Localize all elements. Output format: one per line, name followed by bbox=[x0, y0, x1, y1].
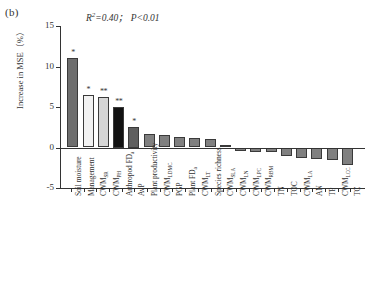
significance-marker: * bbox=[126, 118, 142, 126]
x-axis-label: TN bbox=[277, 186, 286, 196]
bar bbox=[327, 148, 338, 161]
x-axis-label: CWMSR bbox=[99, 171, 108, 196]
x-axis-label: Soil moisture bbox=[74, 156, 83, 196]
bar bbox=[83, 95, 94, 148]
y-tick-label: 15 bbox=[34, 21, 54, 30]
bar bbox=[159, 135, 170, 147]
label-subscript: a bbox=[128, 152, 134, 154]
x-axis-label: Arthropod FDa bbox=[125, 152, 134, 196]
bar bbox=[281, 148, 292, 157]
x-axis-label: PGP bbox=[175, 182, 184, 196]
label-subscript: a bbox=[192, 167, 198, 169]
x-tick bbox=[84, 188, 85, 192]
bar bbox=[128, 127, 139, 147]
y-tick-label: 0 bbox=[34, 143, 54, 152]
bar bbox=[342, 148, 353, 165]
x-axis-labels: Soil moistureManagementCWMSRCWMPHArthrop… bbox=[60, 196, 365, 296]
significance-marker: ** bbox=[95, 88, 111, 96]
x-tick bbox=[300, 188, 301, 192]
bar-series: ******* bbox=[60, 26, 365, 188]
x-axis-label: CWMLPC bbox=[252, 168, 261, 196]
bar bbox=[67, 58, 78, 147]
stats-annotation: R2=0.40； P<0.01 bbox=[86, 10, 160, 24]
plot-area: 151050-5 ******* bbox=[60, 26, 365, 188]
x-tick bbox=[249, 188, 250, 192]
x-tick bbox=[236, 188, 237, 192]
x-tick bbox=[160, 188, 161, 192]
x-axis-label: Species richness bbox=[214, 147, 223, 196]
bar bbox=[98, 97, 109, 147]
label-subscript: LA bbox=[306, 171, 312, 178]
x-axis-label: CWMLA bbox=[303, 171, 312, 196]
x-tick bbox=[172, 188, 173, 192]
x-tick bbox=[261, 188, 262, 192]
x-axis-label: TC bbox=[353, 187, 362, 196]
label-subscript: LCC bbox=[344, 167, 350, 177]
x-axis-label: Plant FDa bbox=[188, 167, 197, 196]
x-tick bbox=[147, 188, 148, 192]
label-subscript: LN bbox=[243, 171, 249, 178]
x-axis-label: CWMLN bbox=[239, 171, 248, 196]
label-subscript: SLA bbox=[230, 168, 236, 178]
x-tick bbox=[134, 188, 135, 192]
label-subscript: LT bbox=[204, 172, 210, 178]
x-axis-label: CWMPH bbox=[112, 171, 121, 196]
x-axis-label: CWMRBM bbox=[264, 166, 273, 196]
label-subscript: PH bbox=[115, 171, 121, 178]
x-axis-label: TP bbox=[328, 187, 337, 196]
x-tick bbox=[71, 188, 72, 192]
x-tick bbox=[223, 188, 224, 192]
x-tick bbox=[274, 188, 275, 192]
x-tick bbox=[350, 188, 351, 192]
x-axis-label: CWMLCC bbox=[341, 167, 350, 196]
x-axis-label: AvP bbox=[137, 183, 146, 196]
x-axis-label: AN bbox=[315, 185, 324, 196]
y-tick-label: -5 bbox=[34, 183, 54, 192]
label-subscript: RBM bbox=[268, 166, 274, 178]
x-axis-label: CWMSLA bbox=[226, 168, 235, 196]
label-subscript: LDMC bbox=[166, 163, 172, 178]
significance-marker: * bbox=[80, 86, 96, 94]
x-tick bbox=[122, 188, 123, 192]
label-subscript: SR bbox=[103, 171, 109, 177]
x-tick bbox=[198, 188, 199, 192]
bar bbox=[113, 107, 124, 148]
x-tick bbox=[96, 188, 97, 192]
y-axis-label: Increase in MSE（%） bbox=[13, 0, 25, 143]
x-axis-label: Management bbox=[87, 157, 96, 196]
label-subscript: LPC bbox=[255, 168, 261, 178]
bar bbox=[174, 137, 185, 148]
x-tick bbox=[287, 188, 288, 192]
x-axis-label: Plant productivity bbox=[150, 143, 159, 196]
bar bbox=[311, 148, 322, 160]
x-axis-label: CWMLDMC bbox=[163, 163, 172, 196]
y-tick-label: 10 bbox=[34, 62, 54, 71]
x-tick bbox=[185, 188, 186, 192]
x-tick bbox=[312, 188, 313, 192]
stats-values: =0.40； P<0.01 bbox=[95, 13, 159, 23]
x-tick bbox=[109, 188, 110, 192]
bar bbox=[296, 148, 307, 159]
x-axis-label: TOC bbox=[290, 181, 299, 196]
significance-marker: * bbox=[65, 49, 81, 57]
bar bbox=[189, 138, 200, 148]
x-tick bbox=[338, 188, 339, 192]
x-tick bbox=[211, 188, 212, 192]
x-axis-label: CWMLT bbox=[201, 172, 210, 196]
figure-panel-b: (b) R2=0.40； P<0.01 Increase in MSE（%） 1… bbox=[0, 0, 389, 298]
x-tick bbox=[325, 188, 326, 192]
y-tick-label: 5 bbox=[34, 102, 54, 111]
significance-marker: ** bbox=[111, 98, 127, 106]
zero-line bbox=[60, 148, 365, 149]
